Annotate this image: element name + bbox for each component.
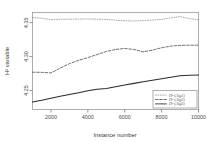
x-tick-label: 8000	[156, 114, 168, 120]
y-tick-label: 4.25	[23, 85, 29, 96]
chart-figure: 4.254.304.35 200040006000800010000 Insta…	[0, 0, 208, 142]
y-tick-label: 4.35	[23, 17, 29, 28]
legend-label-3: H² (Alg3)	[168, 101, 185, 106]
y-tick-label: 4.30	[23, 51, 29, 62]
y-axis-title: H² variable	[4, 47, 10, 75]
x-axis-title: Instance number	[93, 132, 136, 138]
x-tick-label: 6000	[119, 114, 131, 120]
x-tick-label: 4000	[82, 114, 94, 120]
chart-legend: H² (Alg1)H² (Alg2)H² (Alg3)	[153, 91, 197, 109]
x-tick-label: 2000	[45, 114, 57, 120]
x-tick-label: 10000	[191, 114, 206, 120]
chart-background	[0, 0, 208, 142]
